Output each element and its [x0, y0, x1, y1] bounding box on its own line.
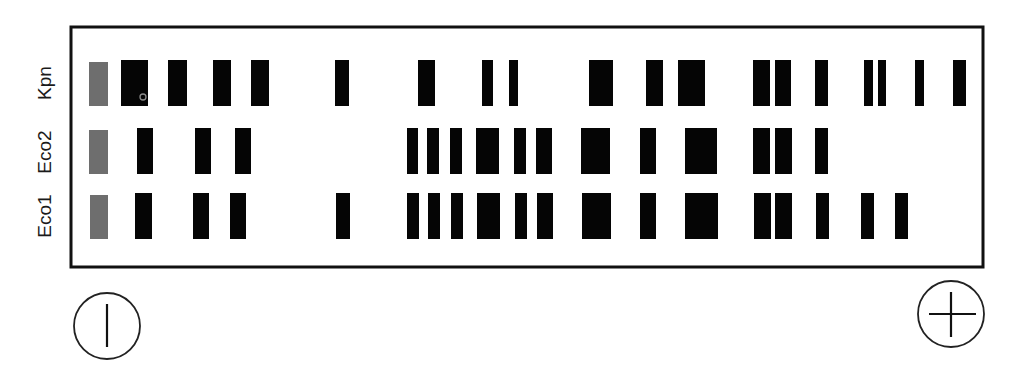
band — [477, 193, 500, 239]
band — [193, 193, 209, 239]
band — [754, 193, 771, 239]
band — [775, 193, 792, 239]
bands — [121, 60, 966, 239]
band — [137, 128, 153, 174]
band — [678, 60, 705, 106]
band — [589, 60, 613, 106]
band — [427, 128, 439, 174]
band — [685, 193, 718, 239]
band — [536, 128, 552, 174]
band — [537, 193, 553, 239]
band — [451, 193, 463, 239]
band — [482, 60, 493, 106]
band — [168, 60, 187, 106]
band — [775, 128, 792, 174]
band — [336, 193, 350, 239]
lane-label-eco1: Eco1 — [34, 176, 56, 256]
band — [213, 60, 231, 106]
band — [235, 128, 251, 174]
gel-svg — [0, 0, 1020, 382]
band — [509, 60, 518, 106]
negative-electrode-icon — [74, 293, 140, 359]
band — [915, 60, 924, 106]
band — [640, 193, 656, 239]
band — [476, 128, 499, 174]
band — [121, 60, 148, 106]
band — [407, 193, 419, 239]
band — [640, 128, 656, 174]
band — [815, 128, 828, 174]
band — [646, 60, 663, 106]
band — [815, 60, 828, 106]
band — [753, 60, 770, 106]
band — [407, 128, 418, 174]
band — [135, 193, 152, 239]
wells — [89, 62, 108, 239]
band — [230, 193, 246, 239]
band — [582, 193, 611, 239]
band — [861, 193, 874, 239]
band — [878, 60, 886, 106]
well-kpn — [89, 62, 108, 106]
band — [514, 128, 526, 174]
band — [515, 193, 527, 239]
band — [864, 60, 873, 106]
band — [895, 193, 908, 239]
band — [753, 128, 770, 174]
gel-diagram: Kpn Eco2 Eco1 — [0, 0, 1020, 382]
band — [581, 128, 610, 174]
band — [953, 60, 966, 106]
well-eco2 — [89, 130, 108, 174]
positive-electrode-icon — [918, 281, 984, 347]
band — [775, 60, 791, 106]
band — [335, 60, 349, 106]
band — [195, 128, 211, 174]
well-eco1 — [90, 195, 108, 239]
band — [450, 128, 462, 174]
band — [428, 193, 440, 239]
band — [418, 60, 435, 106]
lane-label-kpn: Kpn — [34, 43, 56, 123]
band — [816, 193, 829, 239]
band — [251, 60, 269, 106]
band — [685, 128, 717, 174]
